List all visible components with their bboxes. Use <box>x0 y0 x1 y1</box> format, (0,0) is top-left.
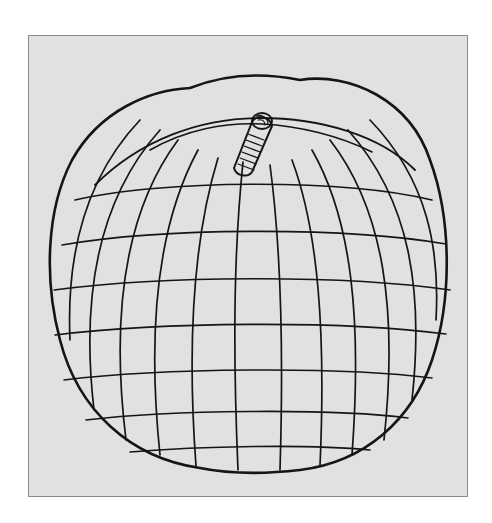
apple-drawing <box>0 0 492 523</box>
apple-meridians <box>70 120 437 470</box>
apple-stem <box>234 113 272 175</box>
apple-parallels <box>54 184 450 452</box>
